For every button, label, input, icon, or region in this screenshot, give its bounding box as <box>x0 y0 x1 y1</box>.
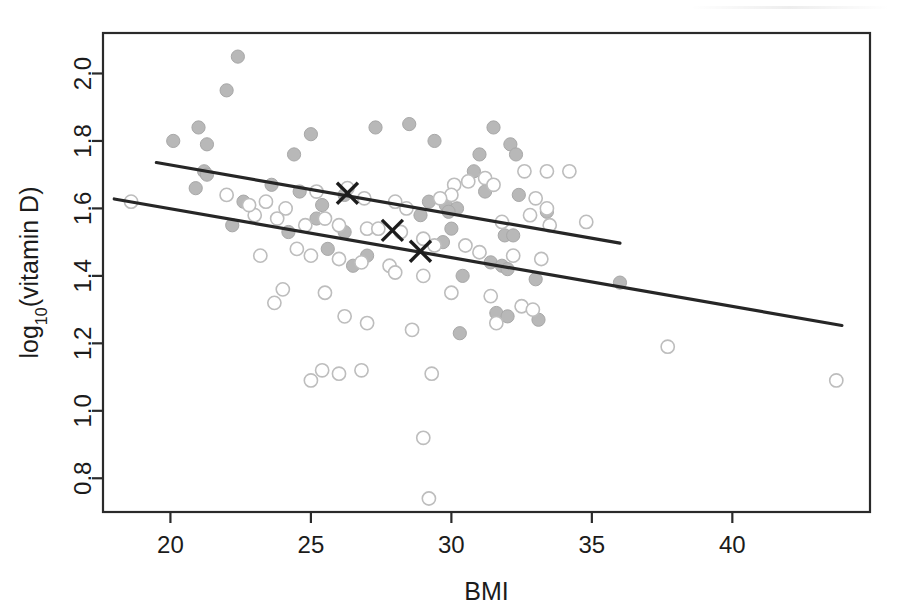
figure-container: 20253035400.81.01.21.41.61.82.0BMIlog10(… <box>0 0 898 614</box>
data-point-open <box>529 192 542 205</box>
data-point-filled <box>321 242 334 255</box>
data-point-open <box>473 246 486 259</box>
data-point-open <box>830 374 843 387</box>
data-point-filled <box>369 121 382 134</box>
data-point-open <box>259 195 272 208</box>
data-point-filled <box>453 327 466 340</box>
axes-frame-layer <box>103 33 870 512</box>
x-tick-label: 40 <box>719 531 746 558</box>
data-point-open <box>372 222 385 235</box>
data-point-open <box>355 256 368 269</box>
data-point-open <box>459 239 472 252</box>
data-point-filled <box>456 269 469 282</box>
data-point-filled <box>509 148 522 161</box>
data-point-open <box>518 165 531 178</box>
data-point-open <box>445 286 458 299</box>
data-point-open <box>540 202 553 215</box>
data-point-filled <box>487 121 500 134</box>
data-point-open <box>271 212 284 225</box>
plot-frame <box>103 33 870 512</box>
y-tick-label: 1.6 <box>69 192 96 225</box>
x-tick-label: 35 <box>579 531 606 558</box>
data-point-open <box>526 303 539 316</box>
data-point-open <box>304 374 317 387</box>
y-tick-label: 0.8 <box>69 462 96 495</box>
data-point-open <box>425 367 438 380</box>
y-axis-label: log10(vitamin D) <box>15 186 50 358</box>
data-point-open <box>580 215 593 228</box>
data-point-open <box>507 249 520 262</box>
y-tick-label: 1.8 <box>69 124 96 157</box>
data-point-open <box>417 431 430 444</box>
data-point-filled <box>231 50 244 63</box>
mean-markers-layer <box>337 183 431 262</box>
y-tick-label: 1.0 <box>69 394 96 427</box>
x-tick-label: 25 <box>298 531 325 558</box>
axis-ticks-layer <box>92 73 732 523</box>
x-axis-label: BMI <box>464 577 508 605</box>
x-tick-label: 20 <box>157 531 184 558</box>
data-point-open <box>490 317 503 330</box>
data-point-open <box>661 340 674 353</box>
data-point-filled <box>304 128 317 141</box>
data-point-open <box>332 219 345 232</box>
data-point-open <box>487 178 500 191</box>
data-point-filled <box>192 121 205 134</box>
data-point-filled <box>428 134 441 147</box>
data-point-open <box>318 212 331 225</box>
data-point-open <box>276 283 289 296</box>
y-tick-label: 1.2 <box>69 327 96 360</box>
data-point-open <box>535 252 548 265</box>
data-point-open <box>290 242 303 255</box>
data-point-open <box>462 175 475 188</box>
data-point-filled <box>316 198 329 211</box>
data-point-open <box>361 317 374 330</box>
data-point-open <box>268 296 281 309</box>
data-point-open <box>243 198 256 211</box>
data-point-filled <box>220 84 233 97</box>
data-point-open <box>422 492 435 505</box>
y-label-subscript: 10 <box>33 307 50 325</box>
data-point-open <box>318 286 331 299</box>
data-points-layer <box>125 50 843 505</box>
data-point-filled <box>189 182 202 195</box>
x-tick-label: 30 <box>438 531 465 558</box>
y-tick-label: 1.4 <box>69 259 96 292</box>
data-point-open <box>523 209 536 222</box>
data-point-open <box>332 367 345 380</box>
data-point-open <box>316 364 329 377</box>
data-point-filled <box>200 138 213 151</box>
data-point-open <box>434 192 447 205</box>
data-point-filled <box>403 117 416 130</box>
data-point-filled <box>287 148 300 161</box>
axis-labels-layer: 20253035400.81.01.21.41.61.82.0BMIlog10(… <box>15 57 746 605</box>
data-point-open <box>355 364 368 377</box>
data-point-filled <box>445 222 458 235</box>
data-point-open <box>332 252 345 265</box>
data-point-open <box>389 266 402 279</box>
data-point-open <box>338 310 351 323</box>
data-point-open <box>417 269 430 282</box>
data-point-filled <box>512 188 525 201</box>
data-point-open <box>304 249 317 262</box>
data-point-open <box>220 188 233 201</box>
data-point-filled <box>167 134 180 147</box>
data-point-open <box>563 165 576 178</box>
scatter-plot: 20253035400.81.01.21.41.61.82.0BMIlog10(… <box>0 0 898 614</box>
data-point-open <box>254 249 267 262</box>
y-label-rest: (vitamin D) <box>15 186 43 307</box>
data-point-open <box>405 323 418 336</box>
y-label-log: log <box>15 325 43 358</box>
data-point-open <box>484 290 497 303</box>
regression-lines-layer <box>114 163 842 326</box>
y-tick-label: 2.0 <box>69 57 96 90</box>
data-point-open <box>540 165 553 178</box>
data-point-filled <box>473 148 486 161</box>
data-point-filled <box>507 229 520 242</box>
